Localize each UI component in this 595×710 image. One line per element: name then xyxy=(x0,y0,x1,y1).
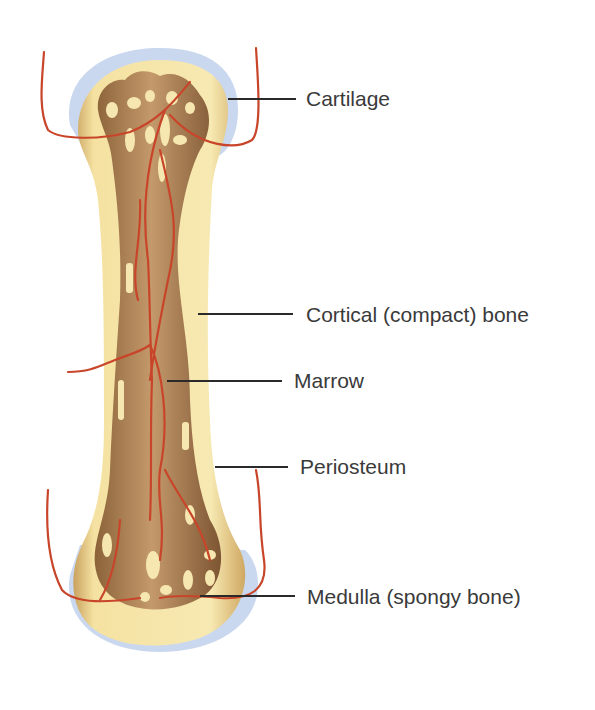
label-cortical-bone: Cortical (compact) bone xyxy=(306,304,529,325)
leader-periosteum xyxy=(215,466,288,468)
leader-cortical xyxy=(198,313,293,315)
label-cartilage: Cartilage xyxy=(306,88,390,109)
label-medulla: Medulla (spongy bone) xyxy=(307,586,521,607)
label-marrow: Marrow xyxy=(294,370,364,391)
leader-medulla xyxy=(200,595,295,597)
leader-marrow xyxy=(167,380,282,382)
label-periosteum: Periosteum xyxy=(300,456,406,477)
leader-cartilage xyxy=(228,98,296,100)
bone-diagram: Cartilage Cortical (compact) bone Marrow… xyxy=(0,0,595,710)
